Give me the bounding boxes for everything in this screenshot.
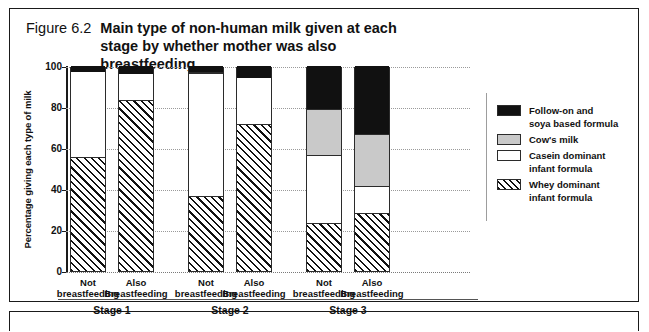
bar-segment	[237, 66, 271, 78]
y-axis-label-text: Percentage giving each type of milk	[22, 62, 33, 277]
stage-group-label: Stage 3	[278, 304, 418, 316]
legend-divider	[486, 93, 487, 221]
x-axis-category-line: Breastfeeding	[329, 288, 415, 299]
plot-area	[66, 67, 470, 272]
bar-segment	[237, 78, 271, 125]
figure-title: Main type of non-human milk given at eac…	[100, 19, 430, 73]
bar-segment	[189, 74, 223, 197]
y-tick-label: 80	[36, 103, 62, 113]
x-axis-category-line: Also	[329, 277, 415, 288]
legend-swatch-whey	[497, 179, 521, 190]
bar-segment	[71, 158, 105, 271]
legend-item[interactable]: Whey dominantinfant formula	[497, 178, 641, 204]
legend-swatch-white	[497, 150, 521, 161]
bar-segment	[119, 101, 153, 271]
figure-container: Figure 6.2 Main type of non-human milk g…	[0, 0, 649, 332]
bar-segment	[119, 66, 153, 74]
legend-item[interactable]: Follow-on andsoya based formula	[497, 104, 641, 130]
figure-number: Figure 6.2	[26, 19, 100, 37]
y-tick-label: 100	[36, 62, 62, 72]
gridline	[66, 272, 470, 273]
stacked-bar[interactable]	[354, 67, 390, 272]
legend-label: Cow's milk	[529, 133, 641, 146]
bar-segment	[237, 125, 271, 271]
legend-item[interactable]: Casein dominantinfant formula	[497, 149, 641, 175]
bar-segment	[307, 156, 341, 224]
legend-label-line: Follow-on and	[529, 104, 641, 117]
legend-swatch-gray	[497, 134, 521, 145]
bar-segment	[307, 66, 341, 109]
legend-label-line: soya based formula	[529, 117, 641, 130]
y-tick-label: 0	[36, 267, 62, 277]
bar-segment	[189, 66, 223, 72]
bar-segment	[355, 134, 389, 187]
stacked-bar[interactable]	[306, 67, 342, 272]
legend-label-line: infant formula	[529, 191, 641, 204]
stacked-bar[interactable]	[236, 67, 272, 272]
legend-label-line: infant formula	[529, 162, 641, 175]
bar-segment	[189, 197, 223, 271]
bar-segment	[307, 109, 341, 156]
y-tick-label: 20	[36, 226, 62, 236]
stacked-bar[interactable]	[188, 67, 224, 272]
legend-label-line: Whey dominant	[529, 178, 641, 191]
bar-segment	[355, 66, 389, 134]
bar-segment	[189, 72, 223, 74]
y-tick-label: 40	[36, 185, 62, 195]
legend-label-line: Cow's milk	[529, 133, 641, 146]
legend-label: Whey dominantinfant formula	[529, 178, 641, 204]
bar-segment	[355, 187, 389, 214]
bar-segment	[307, 224, 341, 271]
stacked-bar[interactable]	[70, 67, 106, 272]
chart-legend: Follow-on andsoya based formulaCow's mil…	[497, 104, 641, 207]
y-axis-label: Percentage giving each type of milk	[22, 0, 35, 62]
legend-swatch-black	[497, 105, 521, 116]
x-axis-category-label: AlsoBreastfeeding	[329, 277, 415, 299]
stage-rule	[58, 299, 478, 300]
legend-label: Follow-on andsoya based formula	[529, 104, 641, 130]
bar-segment	[119, 74, 153, 101]
legend-label: Casein dominantinfant formula	[529, 149, 641, 175]
bar-segment	[355, 214, 389, 271]
legend-item[interactable]: Cow's milk	[497, 133, 641, 146]
legend-label-line: Casein dominant	[529, 149, 641, 162]
stacked-bar[interactable]	[118, 67, 154, 272]
bar-segment	[71, 72, 105, 158]
figure-title-row: Figure 6.2 Main type of non-human milk g…	[26, 19, 526, 73]
bar-segment	[71, 66, 105, 72]
y-tick-label: 60	[36, 144, 62, 154]
